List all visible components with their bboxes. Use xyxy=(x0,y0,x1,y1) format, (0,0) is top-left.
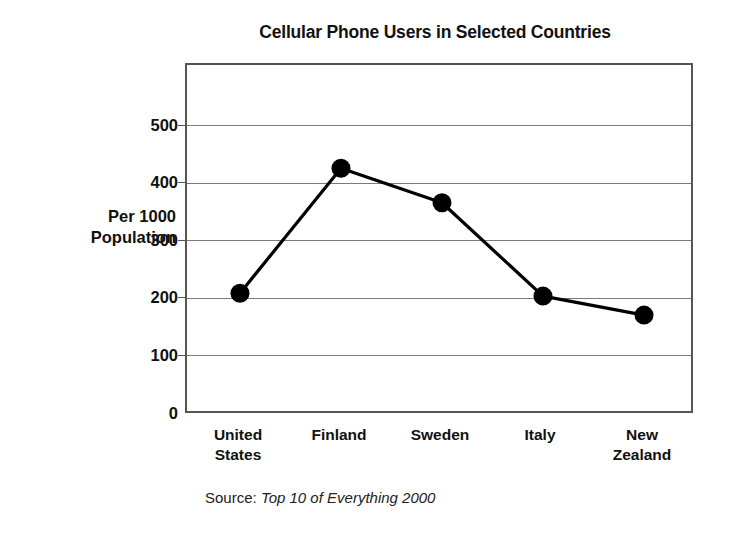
series-cellular-users xyxy=(187,65,695,415)
series-line xyxy=(240,168,644,315)
source-title: Top 10 of Everything 2000 xyxy=(261,489,436,506)
y-tick-mark-200 xyxy=(178,297,185,298)
source-label: Source: xyxy=(205,489,261,506)
x-tick-label-line-1: New xyxy=(572,425,712,445)
data-point-new-zealand xyxy=(635,306,654,325)
y-tick-mark-300 xyxy=(178,240,185,241)
y-tick-label-400: 400 xyxy=(118,173,178,192)
y-tick-label-500: 500 xyxy=(118,116,178,135)
chart-title: Cellular Phone Users in Selected Countri… xyxy=(0,22,734,43)
data-point-italy xyxy=(534,287,553,306)
source-note: Source: Top 10 of Everything 2000 xyxy=(205,489,435,506)
plot-area xyxy=(185,63,693,413)
y-tick-mark-400 xyxy=(178,182,185,183)
y-tick-mark-500 xyxy=(178,125,185,126)
chart-figure: Cellular Phone Users in Selected Countri… xyxy=(0,0,734,533)
data-point-sweden xyxy=(433,193,452,212)
y-axis-title-line-1: Per 1000 xyxy=(40,206,176,227)
y-tick-label-0: 0 xyxy=(118,404,178,423)
data-point-united-states xyxy=(231,284,250,303)
series-markers xyxy=(231,159,654,325)
y-tick-mark-100 xyxy=(178,355,185,356)
x-tick-label-line-2: Zealand xyxy=(572,445,712,465)
x-tick-label-line-2: States xyxy=(168,445,308,465)
x-tick-label-new-zealand: New Zealand xyxy=(572,425,712,465)
data-point-finland xyxy=(332,159,351,178)
y-tick-label-200: 200 xyxy=(118,288,178,307)
y-tick-label-300: 300 xyxy=(118,231,178,250)
y-tick-label-100: 100 xyxy=(118,346,178,365)
